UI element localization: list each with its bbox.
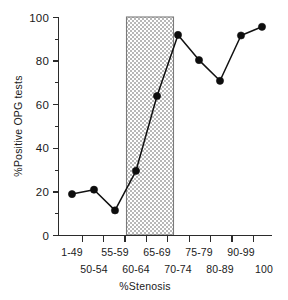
line-chart: 0 20 40 60 80 100 1-49 50-54 55-59 60-64… (0, 0, 288, 300)
data-point (90, 186, 97, 193)
y-tick-label-20: 20 (36, 186, 49, 198)
y-tick-label-40: 40 (36, 142, 49, 154)
data-point (258, 23, 265, 30)
data-point (68, 191, 75, 198)
x-axis-ticks (82, 236, 253, 243)
x-tick-label-90-99: 90-99 (227, 246, 254, 258)
y-axis-title: %Positive OPG tests (12, 75, 24, 176)
x-tick-label-60-64: 60-64 (122, 263, 149, 275)
data-point (216, 77, 223, 84)
x-tick-label-65-69: 65-69 (143, 246, 170, 258)
x-tick-label-80-89: 80-89 (206, 263, 233, 275)
x-tick-label-100: 100 (255, 263, 273, 275)
y-tick-label-0: 0 (42, 230, 49, 242)
shaded-band-annotation (127, 17, 174, 235)
data-point (111, 207, 118, 214)
data-point (153, 92, 160, 99)
y-tick-label-100: 100 (29, 12, 49, 24)
x-tick-label-75-79: 75-79 (185, 246, 212, 258)
data-point (132, 167, 139, 174)
figure-container: 0 20 40 60 80 100 1-49 50-54 55-59 60-64… (0, 0, 288, 300)
data-point (174, 31, 181, 38)
x-tick-label-70-74: 70-74 (164, 263, 191, 275)
x-tick-label-50-54: 50-54 (80, 263, 107, 275)
x-tick-label-1-49: 1-49 (61, 246, 82, 258)
x-tick-label-55-59: 55-59 (101, 246, 128, 258)
y-tick-label-80: 80 (36, 55, 49, 67)
data-point (237, 32, 244, 39)
y-tick-label-60: 60 (36, 99, 49, 111)
x-axis-title: %Stenosis (119, 280, 170, 292)
data-point (195, 57, 202, 64)
